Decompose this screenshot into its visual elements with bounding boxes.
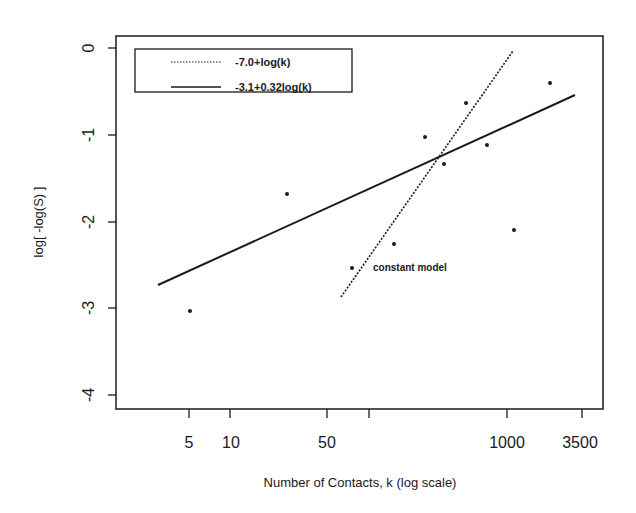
legend: -7.0+log(k) -3.1+0.32log(k) xyxy=(135,49,352,93)
y-axis-title: log[ -log(S) ] xyxy=(31,187,46,258)
data-point xyxy=(512,228,516,232)
data-point xyxy=(442,162,446,166)
data-point xyxy=(464,101,468,105)
data-point xyxy=(188,309,192,313)
y-tick-labels: 0 -1 -2 -3 -4 xyxy=(80,43,97,402)
dotted-fit-line xyxy=(341,51,513,297)
y-tick-label: 0 xyxy=(80,43,97,52)
legend-label-solid: -3.1+0.32log(k) xyxy=(235,81,312,93)
x-axis-title: Number of Contacts, k (log scale) xyxy=(264,475,457,490)
y-axis xyxy=(108,48,116,395)
x-tick-label: 1000 xyxy=(489,434,525,451)
y-tick-label: -4 xyxy=(80,388,97,402)
x-tick-labels: 5 10 50 1000 3500 xyxy=(185,434,598,451)
data-point xyxy=(392,242,396,246)
legend-label-dotted: -7.0+log(k) xyxy=(235,56,291,68)
y-tick-label: -2 xyxy=(80,215,97,229)
x-tick-label: 3500 xyxy=(562,434,598,451)
x-tick-label: 10 xyxy=(222,434,240,451)
data-point xyxy=(548,81,552,85)
constant-model-annotation: constant model xyxy=(373,262,447,273)
data-points xyxy=(188,81,552,313)
y-tick-label: -1 xyxy=(80,128,97,142)
y-tick-label: -3 xyxy=(80,301,97,315)
x-axis xyxy=(189,409,582,418)
solid-fit-line xyxy=(158,95,575,285)
scatter-plot: 0 -1 -2 -3 -4 5 10 50 1000 3500 Number o… xyxy=(0,0,636,513)
data-point xyxy=(285,192,289,196)
data-point xyxy=(485,143,489,147)
x-tick-label: 50 xyxy=(318,434,336,451)
data-point xyxy=(350,266,354,270)
data-point xyxy=(423,135,427,139)
x-tick-label: 5 xyxy=(185,434,194,451)
